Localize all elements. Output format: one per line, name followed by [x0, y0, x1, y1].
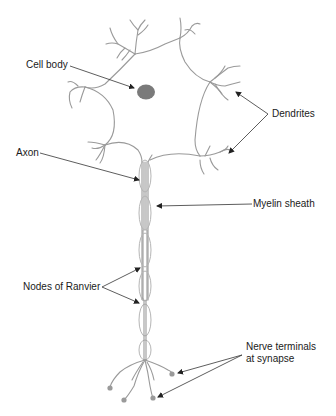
- label-dendrites: Dendrites: [272, 108, 315, 120]
- label-nerve-terminals: Nerve terminals: [246, 341, 316, 353]
- label-at-synapse: at synapse: [246, 353, 294, 365]
- label-myelin-sheath: Myelin sheath: [253, 198, 315, 210]
- label-cell-body: Cell body: [26, 59, 68, 71]
- nerve-terminals: [107, 300, 174, 403]
- dendrites: [68, 18, 240, 174]
- label-nodes-of-ranvier: Nodes of Ranvier: [23, 281, 100, 293]
- cell-body-nucleus: [137, 85, 155, 100]
- label-axon: Axon: [16, 147, 39, 159]
- leader-lines: [40, 66, 268, 397]
- myelin-sheath: [139, 160, 151, 360]
